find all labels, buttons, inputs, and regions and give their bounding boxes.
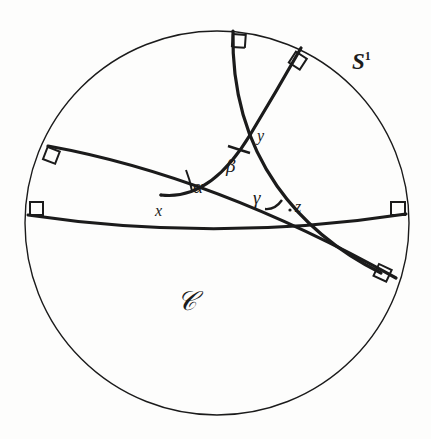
region-label-c: 𝒞: [177, 287, 197, 314]
boundary-circle-label-letter: S: [352, 49, 365, 74]
right-angle-mark-left-lower: [30, 202, 43, 215]
angle-arc-gamma: [265, 200, 282, 209]
geodesic-x-y: [48, 146, 396, 278]
figure-canvas: S1 x y z α β γ 𝒞: [0, 0, 431, 439]
vertex-label-y: y: [257, 128, 264, 144]
angle-label-gamma: γ: [253, 188, 261, 207]
angle-label-beta: β: [226, 156, 235, 175]
vertex-label-z: z: [295, 199, 301, 215]
vertex-label-x: x: [155, 203, 162, 219]
vertex-dot-y: [248, 133, 251, 136]
angle-arc-alpha: [186, 170, 192, 191]
vertex-dot-x: [159, 193, 162, 196]
angle-label-alpha: α: [193, 177, 203, 196]
boundary-circle-label: S1: [352, 50, 371, 73]
right-angle-mark-left-upper: [43, 147, 60, 164]
vertex-dot-z: [288, 208, 291, 211]
boundary-circle-label-exponent: 1: [365, 49, 371, 63]
geodesic-x-z: [28, 214, 406, 229]
